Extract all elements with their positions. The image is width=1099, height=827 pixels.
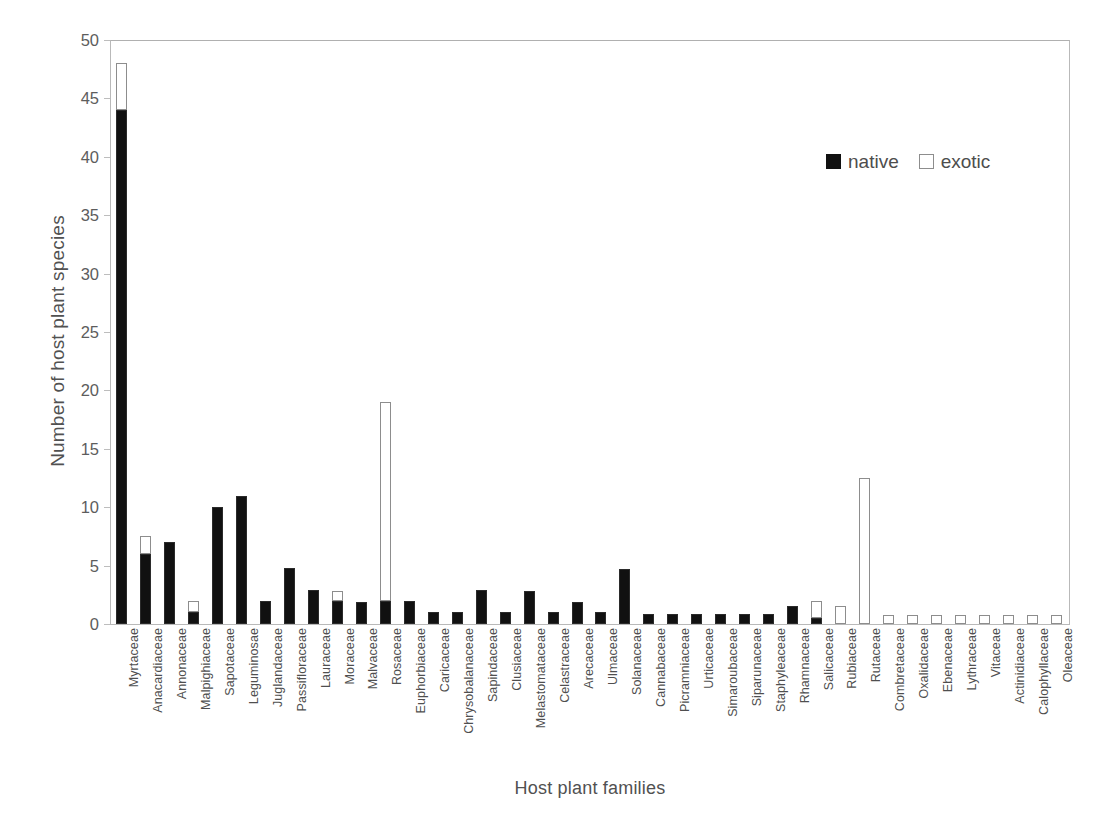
bar-group	[548, 40, 559, 624]
y-tick-label-25: 25	[55, 323, 99, 342]
x-tick-label: Lauraceae	[319, 628, 333, 688]
bar-segment-native	[476, 590, 487, 624]
bar-group	[140, 40, 151, 624]
bar-group	[404, 40, 415, 624]
bar-segment-native	[691, 614, 702, 625]
bars-layer	[110, 40, 1068, 624]
bar-group	[667, 40, 678, 624]
x-tick-label: Urticaceae	[702, 628, 716, 689]
x-tick-label: Celastraceae	[558, 628, 572, 703]
bar-group	[907, 40, 918, 624]
bar-segment-native	[452, 612, 463, 624]
bar-segment-exotic	[188, 601, 199, 613]
y-tick-label-20: 20	[55, 381, 99, 400]
x-tick-label: Simaroubaceae	[726, 628, 740, 717]
x-tick-label: Anacardiaceae	[151, 628, 165, 713]
bar-segment-native	[739, 614, 750, 625]
y-tick-label-50: 50	[55, 31, 99, 50]
legend-label-native: native	[848, 152, 899, 171]
y-tick-label-45: 45	[55, 89, 99, 108]
bar-group	[332, 40, 343, 624]
x-tick-label: Staphyleaceae	[774, 628, 788, 712]
bar-group	[811, 40, 822, 624]
x-tick-label: Caricaceae	[438, 628, 452, 692]
x-tick-label: Calophyllaceae	[1037, 628, 1051, 715]
x-tick-label: Sapindaceae	[486, 628, 500, 702]
x-tick-label: Rosaceae	[390, 628, 404, 685]
bar-segment-exotic	[332, 591, 343, 600]
bar-segment-exotic	[931, 615, 942, 624]
x-tick-label: Oleaceae	[1061, 628, 1075, 682]
x-tick-label: Moraceae	[343, 628, 357, 684]
bar-segment-native	[572, 602, 583, 624]
bar-segment-exotic	[811, 601, 822, 619]
bar-group	[955, 40, 966, 624]
bar-group	[260, 40, 271, 624]
bar-group	[979, 40, 990, 624]
bar-group	[476, 40, 487, 624]
filled-square-icon	[826, 154, 841, 169]
bar-group	[356, 40, 367, 624]
bar-segment-native	[595, 612, 606, 624]
x-tick-label: Annonaceae	[175, 628, 189, 699]
x-tick-label: Arecaceae	[582, 628, 596, 689]
bar-segment-exotic	[140, 536, 151, 554]
bar-group	[787, 40, 798, 624]
bar-segment-native	[524, 591, 535, 624]
bar-group	[643, 40, 654, 624]
bar-group	[284, 40, 295, 624]
x-tick-label: Picramniaceae	[678, 628, 692, 712]
chart-legend: native exotic	[826, 152, 990, 171]
x-tick-label: Solanaceae	[630, 628, 644, 695]
bar-group	[188, 40, 199, 624]
bar-segment-native	[380, 601, 391, 624]
bar-segment-native	[667, 614, 678, 625]
x-tick-label: Malpighiaceae	[199, 628, 213, 710]
bar-segment-exotic	[1051, 615, 1062, 624]
bar-segment-exotic	[1003, 615, 1014, 624]
bar-segment-exotic	[979, 615, 990, 624]
bar-segment-exotic	[380, 402, 391, 601]
bar-group	[1003, 40, 1014, 624]
bar-segment-native	[260, 601, 271, 624]
bar-segment-native	[116, 110, 127, 624]
bar-segment-exotic	[835, 606, 846, 624]
bar-segment-native	[763, 614, 774, 625]
x-tick-label: Actinidiaceae	[1013, 628, 1027, 704]
bar-segment-native	[787, 606, 798, 624]
bar-group	[308, 40, 319, 624]
x-tick-label: Ebenaceae	[941, 628, 955, 692]
bar-group	[116, 40, 127, 624]
bar-segment-native	[308, 590, 319, 624]
bar-segment-native	[619, 569, 630, 624]
bar-segment-native	[500, 612, 511, 624]
bar-segment-exotic	[1027, 615, 1038, 624]
x-tick-label: Cannabaceae	[654, 628, 668, 707]
bar-segment-native	[715, 614, 726, 625]
bar-segment-exotic	[955, 615, 966, 624]
bar-segment-native	[428, 612, 439, 624]
y-tick-label-10: 10	[55, 498, 99, 517]
bar-group	[1051, 40, 1062, 624]
bar-group	[619, 40, 630, 624]
bar-segment-native	[548, 612, 559, 624]
bar-group	[236, 40, 247, 624]
bar-group	[1027, 40, 1038, 624]
bar-segment-native	[236, 496, 247, 624]
x-tick-label: Leguminosae	[247, 628, 261, 704]
bar-segment-exotic	[859, 478, 870, 624]
bar-segment-native	[164, 542, 175, 624]
x-tick-label: Malvaceae	[366, 628, 380, 689]
legend-label-exotic: exotic	[941, 152, 991, 171]
x-tick-label: Juglandaceae	[271, 628, 285, 707]
x-tick-label: Vitaceae	[989, 628, 1003, 677]
bar-group	[212, 40, 223, 624]
x-tick-label: Ulmaceae	[606, 628, 620, 685]
x-tick-label: Lythraceae	[965, 628, 979, 690]
x-axis-title: Host plant families	[110, 778, 1070, 799]
bar-group	[859, 40, 870, 624]
bar-segment-exotic	[907, 615, 918, 624]
bar-segment-native	[811, 618, 822, 624]
bar-segment-native	[643, 614, 654, 625]
bar-group	[595, 40, 606, 624]
